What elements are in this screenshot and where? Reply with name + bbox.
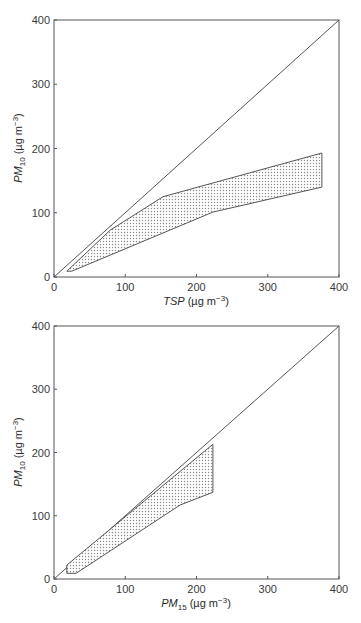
x-tick-label: 400: [330, 583, 348, 595]
x-tick-label: 400: [330, 281, 348, 293]
figure: 0100200300400 0100200300400 PM10 (µg m−3…: [0, 0, 361, 623]
x-tick-label: 300: [259, 583, 277, 595]
y-tick-label: 100: [32, 510, 50, 522]
y-tick-label: 400: [32, 14, 50, 26]
y-axis-label: PM10 (µg m−3): [11, 417, 27, 487]
x-axis-label: PM15 (µg m−3): [161, 596, 231, 612]
shaded-band: [67, 444, 213, 573]
one-to-one-line: [54, 20, 339, 277]
x-tick-label: 100: [116, 281, 134, 293]
y-axis-ticks: 0100200300400: [32, 320, 57, 585]
x-tick-label: 100: [116, 583, 134, 595]
chart-tsp-vs-pm10: 0100200300400 0100200300400 PM10 (µg m−3…: [11, 14, 348, 307]
x-tick-label: 200: [187, 281, 205, 293]
y-tick-label: 200: [32, 447, 50, 459]
chart-pm15-vs-pm10: 0100200300400 0100200300400 PM10 (µg m−3…: [11, 320, 348, 612]
y-axis-label: PM10 (µg m−3): [11, 113, 27, 183]
x-tick-label: 300: [259, 281, 277, 293]
y-tick-label: 400: [32, 320, 50, 332]
y-tick-label: 300: [32, 78, 50, 90]
y-tick-label: 300: [32, 383, 50, 395]
y-tick-label: 0: [44, 271, 50, 283]
y-axis-ticks: 0100200300400: [32, 14, 57, 283]
y-tick-label: 100: [32, 207, 50, 219]
x-tick-label: 200: [187, 583, 205, 595]
y-tick-label: 200: [32, 143, 50, 155]
x-tick-label: 0: [51, 583, 57, 595]
y-tick-label: 0: [44, 573, 50, 585]
x-tick-label: 0: [51, 281, 57, 293]
shaded-band: [67, 153, 322, 271]
x-axis-label: TSP (µg m−3): [163, 294, 229, 307]
